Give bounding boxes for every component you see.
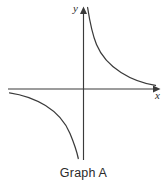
- y-axis-label: y: [72, 2, 78, 14]
- hyperbola-branch-quadrant-one: [88, 8, 156, 86]
- figure-caption: Graph A: [0, 166, 167, 180]
- x-axis-label: x: [154, 89, 160, 101]
- y-axis-arrowhead: [80, 7, 87, 15]
- hyperbola-branch-quadrant-three: [10, 93, 79, 159]
- hyperbola-plot: y x: [0, 0, 167, 166]
- graph-figure: y x Graph A: [0, 0, 167, 186]
